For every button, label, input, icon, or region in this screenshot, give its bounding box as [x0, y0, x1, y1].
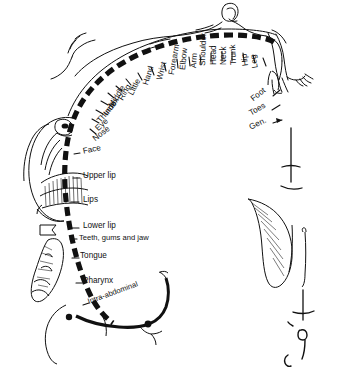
homunculus-label-pharynx: Pharynx — [83, 277, 113, 285]
homunculus-label-upper-lip: Upper lip — [83, 172, 116, 180]
homunculus-label-neck: Neck — [220, 46, 228, 65]
homunculus-label-tongue: Tongue — [80, 252, 107, 260]
homunculus-label-lower-lip: Lower lip — [83, 222, 116, 230]
homunculus-label-head: Head — [210, 45, 218, 65]
homunculus-label-teeth-gums-and-jaw: Teeth, gums and jaw — [79, 234, 149, 242]
homunculus-label-shoulder: Shoulder — [199, 33, 208, 66]
homunculus-label-lips: Lips — [83, 196, 98, 204]
homunculus-label-trunk: Trunk — [229, 44, 238, 65]
